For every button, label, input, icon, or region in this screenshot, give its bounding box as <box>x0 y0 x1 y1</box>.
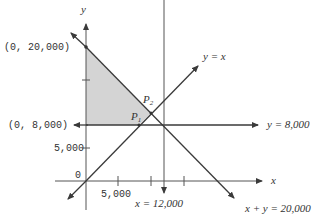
label-x-plus-y: x + y = 20,000 <box>244 202 311 214</box>
point-0-20000 <box>84 45 88 49</box>
x-axis-label: x <box>270 174 276 186</box>
label-x-eq-12000: x = 12,000 <box>134 197 184 209</box>
origin-label: 0 <box>75 170 81 181</box>
lp-diagram: y x 0 5,000 5,000 (0, 20,000) (0, 8,000)… <box>0 0 322 217</box>
point-p2 <box>150 112 153 115</box>
diagram-canvas: y x 0 5,000 5,000 (0, 20,000) (0, 8,000)… <box>0 0 322 217</box>
feasible-region <box>86 47 151 125</box>
label-p2: P2 <box>142 93 154 107</box>
label-0-20000: (0, 20,000) <box>4 42 70 53</box>
label-y-eq-8000: y = 8,000 <box>266 118 310 130</box>
y-axis-label: y <box>80 3 86 15</box>
label-0-8000: (0, 8,000) <box>8 120 68 131</box>
x-tick-label: 5,000 <box>101 189 131 200</box>
line-x-plus-y-upper <box>71 33 86 47</box>
label-y-eq-x: y = x <box>202 50 226 62</box>
y-tick-label: 5,000 <box>54 143 84 154</box>
line-y-eq-x-lower <box>68 181 86 199</box>
